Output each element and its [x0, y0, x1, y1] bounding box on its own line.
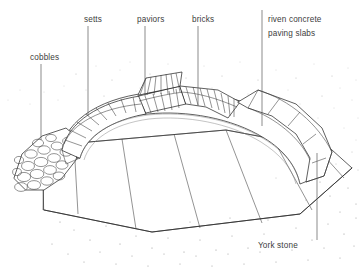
label-paviors: paviors [137, 15, 164, 24]
label-bricks: bricks [192, 15, 214, 24]
paving-materials-diagram: cobbles setts paviors bricks riven concr… [0, 0, 364, 270]
diagram-canvas: cobbles setts paviors bricks riven concr… [0, 0, 364, 270]
label-york-stone: York stone [258, 241, 298, 250]
label-riven-concrete-line1: riven concrete [268, 15, 322, 24]
label-cobbles: cobbles [30, 53, 59, 62]
label-riven-concrete-line2: paving slabs [268, 29, 315, 38]
label-setts: setts [84, 15, 102, 24]
